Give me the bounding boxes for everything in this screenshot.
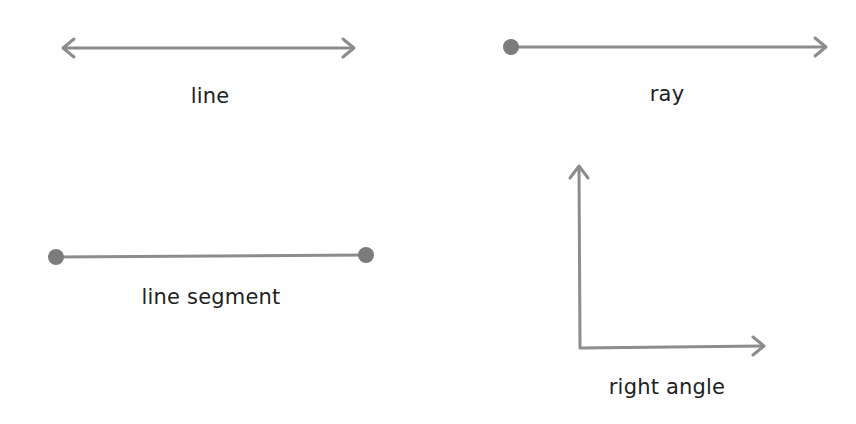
segment-stroke bbox=[56, 255, 366, 257]
segment-right-endpoint-icon bbox=[358, 247, 374, 263]
line-figure bbox=[63, 39, 354, 57]
segment-left-endpoint-icon bbox=[48, 249, 64, 265]
diagram-figures bbox=[0, 0, 856, 424]
line-segment-label: line segment bbox=[141, 287, 280, 308]
right-angle-label: right angle bbox=[609, 377, 725, 398]
geometry-diagram: line ray line segment right angle bbox=[0, 0, 856, 424]
line-segment-figure bbox=[56, 255, 366, 257]
right-angle-figure bbox=[570, 166, 764, 355]
angle-strokes bbox=[579, 167, 763, 348]
ray-endpoint-icon bbox=[503, 39, 519, 55]
ray-label: ray bbox=[650, 84, 685, 105]
line-label: line bbox=[191, 86, 230, 107]
ray-figure bbox=[511, 38, 826, 56]
